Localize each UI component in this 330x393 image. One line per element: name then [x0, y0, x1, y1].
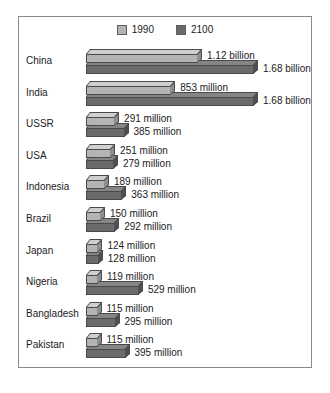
bar-face-front [86, 180, 105, 189]
bar-face-front [86, 349, 126, 358]
bar-face-front [86, 318, 116, 327]
bar-face-side [253, 61, 258, 74]
bar-face-side [125, 345, 130, 358]
bar-value-label: 189 million [114, 176, 162, 187]
chart-row: Indonesia189 million363 million [19, 173, 311, 205]
bar-value-label: 395 million [135, 347, 183, 358]
bar-value-label: 385 million [134, 126, 182, 137]
bar-face-front [86, 65, 254, 74]
bar-value-label: 295 million [125, 316, 173, 327]
bar-face-side [124, 124, 129, 137]
row-label: Pakistan [26, 339, 64, 350]
bar-value-label: 292 million [124, 221, 172, 232]
bar-value-label: 128 million [108, 253, 156, 264]
bar-1990: 115 million [86, 333, 98, 347]
chart-row: USSR291 million385 million [19, 110, 311, 142]
bar-1990: 189 million [86, 175, 105, 189]
bar-value-label: 1.12 billion [207, 50, 255, 61]
bar-face-front [86, 191, 122, 200]
legend-entry-1990: 1990 [117, 25, 154, 35]
bar-body [86, 302, 98, 316]
bar-face-front [86, 223, 115, 232]
legend-label-2100: 2100 [191, 25, 213, 35]
bar-1990: 124 million [86, 239, 98, 253]
row-label: USA [26, 150, 47, 161]
bar-body [86, 207, 101, 221]
row-label: Japan [26, 245, 53, 256]
bar-face-front [86, 338, 98, 347]
chart-row: Pakistan115 million395 million [19, 331, 311, 363]
bar-1990: 119 million [86, 270, 98, 284]
bar-value-label: 251 million [120, 145, 168, 156]
bar-face-front [86, 286, 139, 295]
bar-value-label: 150 million [110, 208, 158, 219]
bar-1990: 251 million [86, 144, 111, 158]
bar-1990: 150 million [86, 207, 101, 221]
bar-face-front [86, 149, 111, 158]
legend-swatch-2100 [176, 25, 186, 35]
bar-face-front [86, 307, 98, 316]
bar-face-front [86, 160, 114, 169]
bar-face-front [86, 212, 101, 221]
chart-row: China1.12 billion1.68 billion [19, 47, 311, 79]
bar-value-label: 115 million [107, 303, 154, 314]
bar-value-label: 529 million [148, 284, 196, 295]
row-label: Bangladesh [26, 308, 79, 319]
row-label: Indonesia [26, 181, 69, 192]
row-label: Brazil [26, 213, 51, 224]
chart-row: Bangladesh115 million295 million [19, 300, 311, 332]
bar-face-side [114, 219, 119, 232]
bar-face-front [86, 54, 198, 63]
chart-row: Nigeria119 million529 million [19, 268, 311, 300]
bar-value-label: 115 million [107, 334, 154, 345]
legend-entry-2100: 2100 [176, 25, 213, 35]
bar-body [86, 333, 98, 347]
legend-swatch-1990 [117, 25, 127, 35]
bar-body [86, 144, 111, 158]
bar-value-label: 124 million [107, 240, 155, 251]
chart-rows: China1.12 billion1.68 billionIndia853 mi… [19, 47, 311, 363]
bar-face-front [86, 128, 125, 137]
bar-body [86, 81, 171, 95]
bar-value-label: 279 million [123, 158, 171, 169]
bar-1990: 853 million [86, 81, 171, 95]
row-label: Nigeria [26, 276, 58, 287]
bar-value-label: 363 million [131, 189, 179, 200]
chart-row: Brazil150 million292 million [19, 205, 311, 237]
chart-frame: 1990 2100 China1.12 billion1.68 billionI… [18, 16, 312, 368]
bar-value-label: 119 million [107, 271, 154, 282]
bar-value-label: 291 million [124, 113, 172, 124]
chart-row: USA251 million279 million [19, 142, 311, 174]
row-label: USSR [26, 118, 54, 129]
bar-value-label: 853 million [180, 82, 228, 93]
chart-legend: 1990 2100 [19, 25, 311, 35]
bar-value-label: 1.68 billion [263, 95, 311, 106]
bar-1990: 115 million [86, 302, 98, 316]
bar-body [86, 270, 98, 284]
bar-body [86, 239, 98, 253]
bar-body [86, 49, 198, 63]
bar-1990: 1.12 billion [86, 49, 198, 63]
row-label: China [26, 55, 52, 66]
bar-body [86, 175, 105, 189]
bar-face-front [86, 255, 99, 264]
legend-label-1990: 1990 [132, 25, 154, 35]
bar-face-side [138, 282, 143, 295]
bar-face-front [86, 86, 171, 95]
bar-body [86, 112, 115, 126]
bar-face-front [86, 117, 115, 126]
bar-value-label: 1.68 billion [263, 63, 311, 74]
chart-row: Japan124 million128 million [19, 237, 311, 269]
bar-1990: 291 million [86, 112, 115, 126]
row-label: India [26, 87, 48, 98]
bar-face-side [121, 187, 126, 200]
bar-face-front [86, 97, 254, 106]
chart-row: India853 million1.68 billion [19, 79, 311, 111]
